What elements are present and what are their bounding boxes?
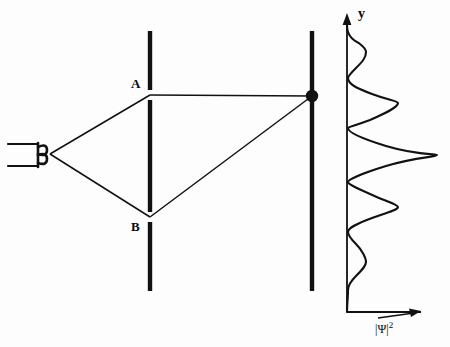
intensity-plot-axes <box>343 13 421 318</box>
diagram-canvas <box>0 0 450 347</box>
y-axis-label: y <box>358 6 365 22</box>
intensity-axis-label-exponent: 2 <box>389 320 394 330</box>
ray-slit-b-to-point <box>150 96 312 217</box>
intensity-axis-label: |Ψ|2 <box>375 320 393 337</box>
physics-diagram-figure: A B y |Ψ|2 <box>0 0 450 347</box>
intensity-arrow-shaft-icon <box>378 313 414 318</box>
incident-rays <box>50 95 150 217</box>
slit-b-label: B <box>131 219 140 235</box>
intensity-axis-label-base: |Ψ| <box>375 322 389 336</box>
light-source-icon <box>8 143 47 167</box>
ray-source-to-slit-b <box>50 154 150 217</box>
slit-a-label: A <box>131 76 140 92</box>
detection-point-dot <box>306 90 318 102</box>
diffracted-rays <box>150 95 312 217</box>
ray-slit-a-to-point <box>150 95 312 96</box>
interference-intensity-curve <box>347 22 437 312</box>
ray-source-to-slit-a <box>50 95 150 154</box>
